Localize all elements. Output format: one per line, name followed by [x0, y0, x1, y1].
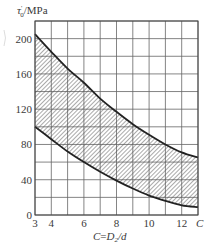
y-tick-label: 40	[21, 174, 33, 186]
y-tick-label: 80	[21, 138, 33, 150]
x-tick-label: 10	[144, 217, 156, 229]
x-tick-label: 4	[49, 217, 55, 229]
x-tick-label: 6	[81, 217, 87, 229]
y-tick-label: 120	[16, 103, 33, 115]
x-axis-label: C=D2/d	[93, 230, 127, 244]
scan-artifact	[4, 30, 6, 46]
x-tick-label: 12	[176, 217, 187, 229]
y-tick-label: 200	[16, 33, 33, 45]
y-tick-label: 160	[16, 68, 33, 80]
chart: 04080120160200 34681012 τ'0/MPa C C=D2/d	[0, 0, 212, 249]
x-axis-ticks: 34681012	[32, 217, 187, 229]
x-tick-label: 3	[32, 217, 38, 229]
x-end-label: C	[196, 217, 204, 229]
y-axis-label: τ'0/MPa	[17, 4, 48, 19]
x-tick-label: 8	[114, 217, 120, 229]
y-axis-ticks: 04080120160200	[16, 33, 33, 221]
